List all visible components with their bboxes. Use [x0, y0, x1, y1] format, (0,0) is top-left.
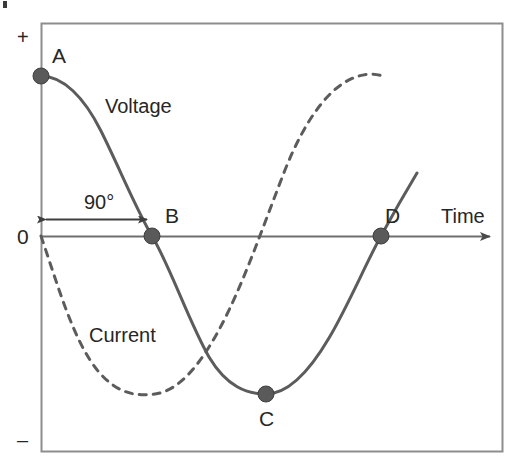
series-label-current: Current: [89, 325, 156, 345]
point-label-d: D: [385, 205, 400, 226]
point-label-a: A: [52, 45, 66, 66]
axis-label-zero: 0: [17, 226, 29, 247]
phase-diagram-figure: + 0 – Time Voltage Current 90° A B C D: [0, 0, 521, 471]
axis-label-negative: –: [17, 430, 28, 450]
data-point-marker: [144, 228, 160, 244]
axis-label-time: Time: [441, 206, 485, 226]
axis-label-positive: +: [17, 27, 29, 47]
series-label-voltage: Voltage: [105, 96, 172, 116]
data-point-marker: [373, 228, 389, 244]
data-point-marker: [33, 68, 49, 84]
point-label-b: B: [165, 205, 179, 226]
voltage-curve: [41, 76, 417, 394]
data-point-marker: [258, 386, 274, 402]
current-curve: [41, 74, 383, 395]
phase-shift-label: 90°: [84, 192, 114, 212]
phase-diagram-canvas: [0, 0, 521, 471]
point-label-c: C: [259, 408, 274, 429]
